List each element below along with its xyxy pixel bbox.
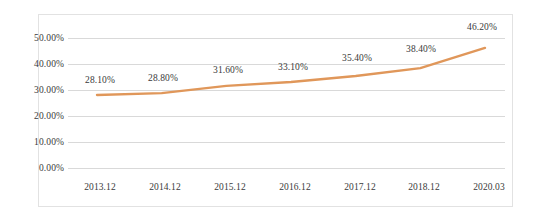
x-tick-label-2: 2015.12 <box>200 183 260 193</box>
x-tick-label-1: 2014.12 <box>135 183 195 193</box>
gridline-50 <box>68 38 505 39</box>
data-label-0: 28.10% <box>70 76 130 86</box>
gridline-20 <box>68 116 505 117</box>
y-tick-label-50: 50.00% <box>34 34 64 44</box>
gridline-10 <box>68 142 505 143</box>
data-label-5: 38.40% <box>391 45 451 55</box>
data-label-1: 28.80% <box>133 74 193 84</box>
gridline-30 <box>68 90 505 91</box>
y-tick-label-0: 0.00% <box>39 164 64 174</box>
x-tick-label-5: 2018.12 <box>394 183 454 193</box>
y-tick-label-30: 30.00% <box>34 86 64 96</box>
x-tick-label-6: 2020.03 <box>459 183 519 193</box>
data-label-3: 33.10% <box>263 63 323 73</box>
gridline-0 <box>68 168 505 169</box>
x-tick-label-0: 2013.12 <box>70 183 130 193</box>
x-tick-label-4: 2017.12 <box>330 183 390 193</box>
y-tick-label-40: 40.00% <box>34 60 64 70</box>
data-label-6: 46.20% <box>452 23 512 33</box>
plot-area <box>68 38 505 168</box>
line-chart: 50.00% 40.00% 30.00% 20.00% 10.00% 0.00%… <box>0 0 543 221</box>
y-tick-label-10: 10.00% <box>34 138 64 148</box>
y-tick-label-20: 20.00% <box>34 112 64 122</box>
data-label-4: 35.40% <box>327 54 387 64</box>
y-axis-tick-labels: 50.00% 40.00% 30.00% 20.00% 10.00% 0.00% <box>0 0 64 221</box>
data-label-2: 31.60% <box>198 66 258 76</box>
x-tick-label-3: 2016.12 <box>265 183 325 193</box>
